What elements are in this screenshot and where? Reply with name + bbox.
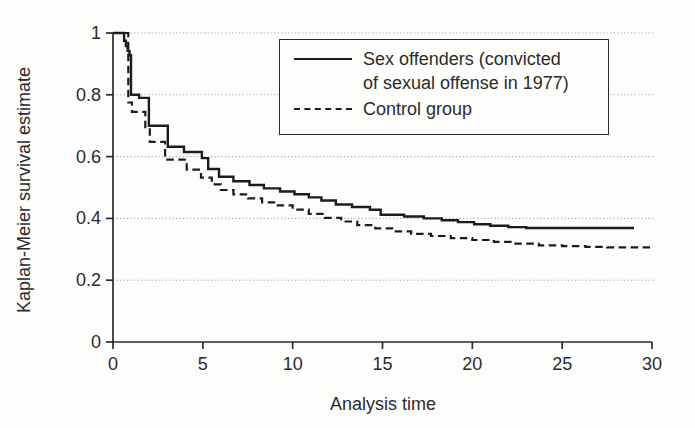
legend: Sex offenders (convicted of sexual offen… <box>279 39 609 135</box>
legend-label-line-2: of sexual offense in 1977) <box>363 71 569 95</box>
legend-label-line-1: Control group <box>363 97 472 121</box>
x-tick-label: 25 <box>552 354 572 375</box>
x-tick-label: 0 <box>108 354 118 375</box>
x-tick-label: 30 <box>642 354 662 375</box>
dashed-line-sample <box>294 108 352 110</box>
legend-label-control-group: Control group <box>363 97 472 121</box>
legend-entry-control-group: Control group <box>280 97 608 121</box>
legend-label-sex-offenders: Sex offenders (convicted of sexual offen… <box>363 47 569 95</box>
y-axis-title: Kaplan-Meier survival estimate <box>14 67 35 313</box>
legend-entry-sex-offenders: Sex offenders (convicted of sexual offen… <box>280 47 608 95</box>
x-tick-label: 15 <box>372 354 392 375</box>
solid-line-sample <box>294 58 352 60</box>
y-tick-label: 0.8 <box>76 84 101 105</box>
y-tick-label: 1 <box>91 23 101 44</box>
x-tick-label: 5 <box>198 354 208 375</box>
y-tick-label: 0.6 <box>76 146 101 167</box>
y-tick-label: 0 <box>91 332 101 353</box>
kaplan-meier-chart: Kaplan-Meier survival estimate Analysis … <box>0 0 695 428</box>
y-tick-label: 0.4 <box>76 208 101 229</box>
x-tick-label: 10 <box>283 354 303 375</box>
y-tick-label: 0.2 <box>76 270 101 291</box>
x-axis-title: Analysis time <box>330 394 436 415</box>
x-tick-label: 20 <box>462 354 482 375</box>
legend-label-line-1: Sex offenders (convicted <box>363 47 569 71</box>
